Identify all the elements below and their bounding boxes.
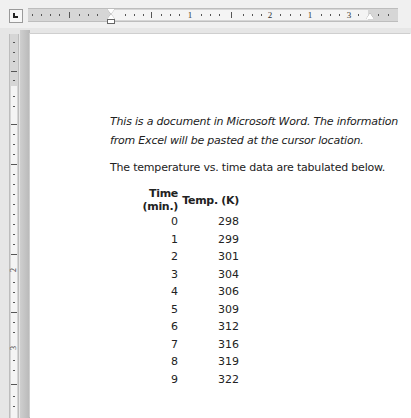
ruler-tick: [88, 14, 89, 16]
table-row: 4 306: [110, 283, 239, 301]
table-row: 7 316: [110, 336, 239, 354]
data-table[interactable]: Time (min.) Temp. (K) 0 298 1 299 2: [110, 187, 239, 388]
ruler-tick: [79, 14, 80, 16]
ruler-tick: [161, 14, 162, 16]
time-cell: 1: [110, 231, 181, 249]
temp-cell: 322: [181, 371, 239, 389]
ruler-tick: [11, 124, 17, 125]
temp-cell: 306: [181, 283, 239, 301]
ruler-tick: [300, 14, 301, 16]
ruler-tick: [13, 80, 15, 81]
temp-cell: 299: [181, 231, 239, 249]
table-row: 1 299: [110, 231, 239, 249]
ruler-tick: [179, 14, 180, 16]
word-window: 1 2 1 3: [0, 0, 411, 418]
ruler-tick: [13, 224, 15, 225]
ruler-tick: [13, 332, 15, 333]
ruler-tick: [69, 12, 70, 18]
hanging-indent-marker[interactable]: [107, 9, 115, 21]
ruler-tick: [321, 14, 322, 16]
ruler-text-area: [11, 86, 17, 418]
time-cell: 9: [110, 371, 181, 389]
ruler-tick: [11, 384, 17, 385]
ruler-tick: [219, 14, 220, 16]
ruler-tick: [280, 14, 281, 16]
ruler-tick: [13, 96, 15, 97]
time-cell: 4: [110, 283, 181, 301]
ruler-tick: [13, 292, 15, 293]
ruler-tick: [59, 14, 60, 16]
table-row: 6 312: [110, 318, 239, 336]
ruler-tick: [13, 396, 15, 397]
ruler-tick: [378, 14, 379, 16]
ruler-number: 1: [308, 9, 313, 21]
ruler-tick: [13, 204, 15, 205]
column-header-temp: Temp. (K): [181, 187, 239, 213]
temp-cell: 312: [181, 318, 239, 336]
time-cell: 2: [110, 248, 181, 266]
document-body[interactable]: This is a document in Microsoft Word. Th…: [110, 112, 410, 418]
ruler-tick: [13, 134, 15, 135]
table-row: 8 319: [110, 353, 239, 371]
ruler-tick: [13, 52, 15, 53]
ruler-tick: [97, 14, 98, 16]
ruler-tick: [13, 144, 15, 145]
time-cell: 0: [110, 213, 181, 231]
time-cell: 7: [110, 336, 181, 354]
column-header-time: Time (min.): [110, 187, 181, 213]
ruler-tick: [13, 214, 15, 215]
document-page[interactable]: This is a document in Microsoft Word. Th…: [30, 34, 411, 418]
ruler-tick: [13, 322, 15, 323]
ruler-tick: [330, 14, 331, 16]
ruler-tick: [134, 14, 135, 16]
ruler-tick: [339, 14, 340, 16]
tab-stop-selector[interactable]: [9, 9, 23, 23]
time-cell: 8: [110, 353, 181, 371]
temp-cell: 319: [181, 353, 239, 371]
ruler-tick: [13, 406, 15, 407]
ruler-tick: [13, 42, 15, 43]
ruler-tick: [11, 254, 17, 255]
ruler-number: 1: [188, 9, 193, 21]
ruler-tick: [252, 14, 253, 16]
ruler-tick: [13, 106, 15, 107]
ruler-tick: [13, 360, 15, 361]
lead-paragraph[interactable]: The temperature vs. time data are tabula…: [110, 158, 410, 177]
ruler-tick: [231, 12, 232, 18]
intro-paragraph[interactable]: This is a document in Microsoft Word. Th…: [110, 112, 410, 150]
ruler-tick: [243, 14, 244, 16]
ruler-number: 3: [347, 9, 352, 21]
ruler-tick: [125, 14, 126, 16]
ruler-number: 2: [268, 9, 273, 21]
ruler-tick: [11, 164, 17, 165]
table-row: 0 298: [110, 213, 239, 231]
horizontal-ruler[interactable]: 1 2 1 3: [28, 8, 398, 22]
ruler-tick: [151, 12, 152, 18]
ruler-tick: [13, 154, 15, 155]
ruler-tick: [50, 14, 51, 16]
table-row: 5 309: [110, 301, 239, 319]
ruler-tick: [143, 14, 144, 16]
table-row: 2 301: [110, 248, 239, 266]
ruler-tick: [41, 14, 42, 16]
ruler-number: 3: [10, 344, 18, 352]
table-row: 3 304: [110, 266, 239, 284]
table-header-row: Time (min.) Temp. (K): [110, 187, 239, 213]
page-left-shadow: [20, 30, 30, 418]
ruler-tick: [13, 234, 15, 235]
time-cell: 6: [110, 318, 181, 336]
right-indent-marker[interactable]: [366, 13, 374, 19]
ruler-tick: [13, 61, 15, 62]
time-cell: 5: [110, 301, 181, 319]
temp-cell: 298: [181, 213, 239, 231]
temp-cell: 304: [181, 266, 239, 284]
ruler-tick: [13, 244, 15, 245]
ruler-tick: [358, 14, 359, 16]
ruler-tick: [13, 302, 15, 303]
left-indent-icon[interactable]: [107, 19, 115, 24]
temp-cell: 309: [181, 301, 239, 319]
ruler-tick: [290, 14, 291, 16]
ruler-tick: [13, 174, 15, 175]
vertical-ruler[interactable]: 1 2 3: [9, 34, 19, 418]
ruler-tick: [11, 312, 17, 313]
